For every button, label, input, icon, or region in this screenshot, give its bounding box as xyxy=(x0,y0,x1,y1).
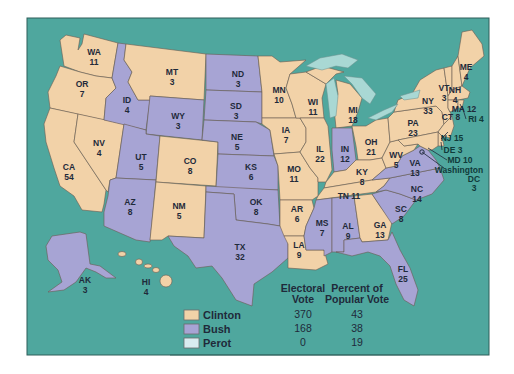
svg-text:LA: LA xyxy=(293,240,304,250)
label-nj: NJ 15 xyxy=(441,133,464,143)
label-de: DE 3 xyxy=(444,145,463,155)
svg-text:ID: ID xyxy=(123,95,132,105)
svg-text:10: 10 xyxy=(274,95,284,105)
svg-text:MO: MO xyxy=(287,164,301,174)
legend-label-perot: Perot xyxy=(203,337,231,349)
svg-text:4: 4 xyxy=(144,287,149,297)
svg-text:21: 21 xyxy=(366,147,376,157)
svg-text:NY: NY xyxy=(422,96,434,106)
svg-text:IA: IA xyxy=(282,125,291,135)
label-ri: RI 4 xyxy=(468,114,484,124)
legend-popular-bush: 38 xyxy=(351,322,363,334)
svg-text:WV: WV xyxy=(389,150,403,160)
label-pa: PA23 xyxy=(407,118,418,138)
svg-text:5: 5 xyxy=(139,162,144,172)
label-il: IL22 xyxy=(315,144,325,164)
svg-text:ND: ND xyxy=(232,69,244,79)
legend-electoral-clinton: 370 xyxy=(294,308,312,320)
legend-label-bush: Bush xyxy=(203,323,231,335)
label-mn: MN10 xyxy=(272,85,285,105)
svg-text:5: 5 xyxy=(177,211,182,221)
svg-text:NV: NV xyxy=(93,138,105,148)
label-nc: NC14 xyxy=(411,184,423,204)
svg-text:3: 3 xyxy=(170,77,175,87)
svg-text:8: 8 xyxy=(254,207,259,217)
svg-text:AK: AK xyxy=(79,275,92,285)
svg-text:12: 12 xyxy=(340,154,350,164)
legend-electoral-perot: 0 xyxy=(300,336,306,348)
svg-text:3: 3 xyxy=(83,285,88,295)
svg-text:KS: KS xyxy=(245,162,257,172)
label-tn: TN 11 xyxy=(338,191,361,201)
svg-text:5: 5 xyxy=(394,160,399,170)
svg-text:IN: IN xyxy=(341,144,350,154)
svg-text:NE: NE xyxy=(231,132,243,142)
svg-text:3: 3 xyxy=(176,121,181,131)
svg-text:NC: NC xyxy=(411,184,423,194)
svg-text:7: 7 xyxy=(284,135,289,145)
svg-text:OH: OH xyxy=(365,137,378,147)
svg-text:11: 11 xyxy=(290,174,299,184)
label-ga: GA13 xyxy=(374,220,387,240)
svg-text:7: 7 xyxy=(320,228,325,238)
svg-text:MI: MI xyxy=(348,105,357,115)
svg-text:11: 11 xyxy=(90,57,99,67)
svg-text:8: 8 xyxy=(188,166,193,176)
svg-text:25: 25 xyxy=(398,274,408,284)
svg-text:8: 8 xyxy=(128,207,133,217)
svg-text:WI: WI xyxy=(308,97,318,107)
svg-text:CA: CA xyxy=(63,162,75,172)
legend-label-clinton: Clinton xyxy=(203,309,241,321)
label-oh: OH21 xyxy=(365,137,378,157)
svg-text:7: 7 xyxy=(80,89,85,99)
svg-text:MS: MS xyxy=(316,218,329,228)
svg-text:3: 3 xyxy=(442,93,447,103)
svg-text:4: 4 xyxy=(97,148,102,158)
svg-text:NM: NM xyxy=(172,201,185,211)
svg-text:MN: MN xyxy=(272,85,285,95)
label-tx: TX32 xyxy=(235,242,246,262)
label-fl: FL25 xyxy=(398,264,408,284)
svg-text:14: 14 xyxy=(412,194,422,204)
svg-text:ME: ME xyxy=(460,62,473,72)
svg-text:22: 22 xyxy=(315,154,325,164)
svg-text:UT: UT xyxy=(135,152,147,162)
label-va: VA13 xyxy=(409,158,420,178)
label-ny: NY33 xyxy=(422,96,434,116)
label-md: MD 10 xyxy=(447,155,472,165)
svg-text:NH: NH xyxy=(449,85,461,95)
swatch-perot xyxy=(184,338,199,348)
svg-text:6: 6 xyxy=(249,172,254,182)
svg-text:WA: WA xyxy=(87,47,101,57)
svg-text:11: 11 xyxy=(309,107,318,117)
svg-text:8: 8 xyxy=(399,214,404,224)
label-dc-votes: 3 xyxy=(472,183,477,193)
svg-text:4: 4 xyxy=(125,105,130,115)
svg-text:9: 9 xyxy=(346,231,351,241)
label-ca: CA54 xyxy=(63,162,75,182)
svg-text:AR: AR xyxy=(291,204,303,214)
label-wi: WI11 xyxy=(308,97,318,117)
svg-text:18: 18 xyxy=(348,115,358,125)
state-ks[interactable] xyxy=(216,154,278,190)
svg-text:8: 8 xyxy=(360,177,365,187)
svg-text:PA: PA xyxy=(407,118,418,128)
svg-text:OR: OR xyxy=(76,79,89,89)
svg-text:SC: SC xyxy=(395,204,407,214)
svg-text:23: 23 xyxy=(408,128,418,138)
svg-text:3: 3 xyxy=(234,111,239,121)
svg-text:AL: AL xyxy=(342,221,353,231)
label-in: IN12 xyxy=(340,144,350,164)
svg-text:FL: FL xyxy=(398,264,408,274)
legend-popular-clinton: 43 xyxy=(351,308,363,320)
svg-text:6: 6 xyxy=(295,214,300,224)
legend-header-popular-2: Popular Vote xyxy=(325,293,389,305)
svg-text:VA: VA xyxy=(409,158,420,168)
svg-text:4: 4 xyxy=(464,72,469,82)
label-mi: MI18 xyxy=(348,105,358,125)
svg-text:3: 3 xyxy=(236,79,241,89)
election-map: WA11 OR7 CA54 NV4 ID4 MT3 WY3 UT5 AZ8 CO… xyxy=(0,0,514,374)
svg-text:33: 33 xyxy=(423,106,433,116)
svg-text:HI: HI xyxy=(142,277,151,287)
svg-text:IL: IL xyxy=(316,144,324,154)
